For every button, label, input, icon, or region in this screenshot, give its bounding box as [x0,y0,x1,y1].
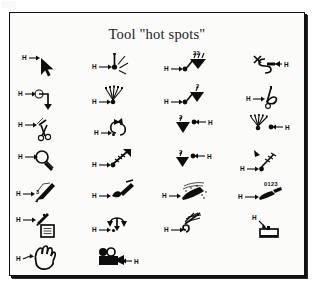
svg-text:H: H [92,192,97,199]
svg-text:H: H [134,258,139,265]
spray-can-icon: H [160,178,230,208]
tool-cell-arrow-pointer-tool[interactable]: H [10,49,84,81]
svg-text:3: 3 [36,189,40,195]
svg-text:H: H [92,98,97,105]
svg-text:H: H [18,121,23,128]
tool-cell-spray-burst-tool[interactable]: H [84,49,158,81]
tool-cell-measure-number-tool[interactable]: 0123 H [232,177,306,209]
svg-text:H: H [208,119,213,126]
tool-cell-s-curve-tool[interactable]: H [232,49,306,81]
svg-text:H: H [252,214,257,221]
tool-cell-magnifier-zoom-tool[interactable]: H [10,145,84,177]
funnel-right-small-icon: 2 H [160,146,230,176]
svg-text:H: H [285,124,290,131]
airbrush-rays-icon: H [86,82,156,112]
flip-vertical-icon: H [86,210,156,240]
figure-frame: Tool "hot spots" H H [9,12,305,276]
svg-text:2: 2 [196,83,200,89]
spray-burst-icon: H [86,50,156,80]
svg-text:H: H [246,95,251,102]
tool-cell-pencil-note-tool[interactable]: H [10,209,84,241]
stamp-icon: H [234,210,304,240]
svg-text:2: 2 [179,149,183,155]
scissors-icon: H [234,82,304,112]
svg-text:H: H [16,190,21,197]
tool-hotspot-grid: H H [10,49,306,273]
svg-text:H: H [164,65,169,72]
paintbrush-icon: H [86,178,156,208]
svg-text:H: H [240,165,245,172]
svg-text:H: H [18,90,23,97]
svg-text:2: 2 [179,114,183,120]
funnel-double-icon: H 22 [160,50,230,80]
svg-text:H: H [92,226,97,233]
svg-text:H: H [94,129,99,136]
svg-text:H: H [284,61,289,68]
measure-value-label: 0123 [264,181,278,187]
tool-cell-funnel-single-tool[interactable]: H 2 [158,81,232,113]
tool-cell-funnel-right-small-tool[interactable]: 2 H [158,145,232,177]
tool-cell-flip-vertical-tool[interactable]: H [84,209,158,241]
magnifier-icon: H [12,146,82,176]
hand-icon: H [12,242,82,272]
rays-hook-icon: H [160,210,230,240]
movie-camera-icon: H [86,242,156,272]
tool-cell-pencil-draw-tool[interactable]: H 3 [10,177,84,209]
pencil-icon: H 3 [12,178,82,208]
tool-cell-airbrush-right-tool[interactable]: H [232,113,306,145]
svg-text:H: H [164,98,169,105]
svg-text:H: H [238,193,243,200]
scan-artifact [2,1,16,8]
tool-cell-funnel-double-tool[interactable]: H 22 [158,49,232,81]
bent-arrow-icon: H [12,82,82,112]
measure-pen-icon: 0123 H [234,178,304,208]
tool-cell-rays-down-tool[interactable]: H [232,145,306,177]
svg-text:H: H [162,192,167,199]
tool-cell-hand-pan-tool[interactable]: H [10,241,84,273]
tool-cell-scissors-trim-tool[interactable]: H [10,113,84,145]
svg-text:H: H [16,255,21,262]
tool-cell-scissors-cut-tool[interactable]: H [232,81,306,113]
svg-text:H: H [18,153,23,160]
airbrush-right-icon: H [234,114,304,144]
pencil-note-icon: H [12,210,82,240]
rays-arrow-icon: H [86,146,156,176]
svg-text:22: 22 [193,50,200,56]
arrow-pointer-icon: H [12,50,82,80]
tool-cell-rays-arrow-tool[interactable]: H [84,145,158,177]
tool-cell-airbrush-rays-tool[interactable]: H [84,81,158,113]
svg-text:H: H [22,54,27,61]
svg-text:H: H [16,216,21,223]
rotate-arrows-icon: H [86,114,156,144]
tool-cell-paintbrush-tool[interactable]: H [84,177,158,209]
rays-down-icon: H [234,146,304,176]
tool-cell-movie-camera-tool[interactable]: H [84,241,158,273]
funnel-single-icon: H 2 [160,82,230,112]
svg-text:H: H [92,63,97,70]
tool-cell-stamp-tool[interactable]: H [232,209,306,241]
tool-cell-rays-hook-tool[interactable]: H [158,209,232,241]
svg-text:H: H [92,161,97,168]
s-curve-icon: H [234,50,304,80]
tool-cell-funnel-right-tool[interactable]: 2 H [158,113,232,145]
tool-cell-spray-can-tool[interactable]: H [158,177,232,209]
tool-cell-bent-arrow-tool[interactable]: H [10,81,84,113]
tool-cell-rotate-arrows-tool[interactable]: H [84,113,158,145]
svg-text:H: H [207,153,212,160]
funnel-right-icon: 2 H [160,114,230,144]
scissors-small-icon: H [12,114,82,144]
figure-title: Tool "hot spots" [10,26,304,43]
svg-text:H: H [164,226,169,233]
